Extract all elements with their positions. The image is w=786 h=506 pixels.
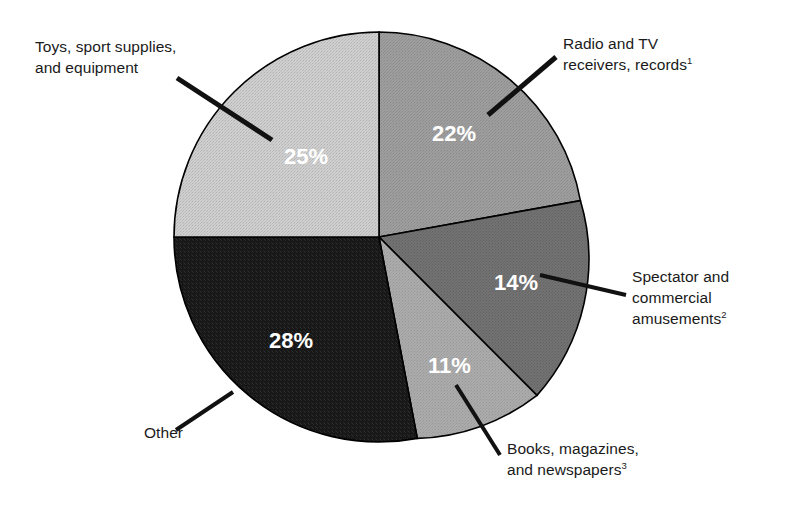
callout-label-spectator-line3-text: amusements [632, 310, 721, 327]
callout-label-books-line2: and newspapers3 [507, 459, 639, 480]
callout-label-radio-tv-line1: Radio and TV [563, 33, 692, 54]
callout-label-radio-tv: Radio and TV receivers, records1 [563, 33, 692, 75]
callout-label-radio-tv-line2-text: receivers, records [563, 56, 687, 73]
callout-label-spectator: Spectator and commercial amusements2 [632, 266, 729, 329]
leader-line-other [176, 392, 233, 430]
footnote-marker-1: 1 [687, 55, 692, 66]
footnote-marker-2: 2 [721, 309, 726, 320]
slice-value-toys: 25% [284, 144, 328, 169]
slice-value-spectator: 14% [494, 270, 538, 295]
callout-label-books-line2-text: and newspapers [507, 461, 621, 478]
slice-value-other: 28% [269, 328, 313, 353]
callout-label-books: Books, magazines, and newspapers3 [507, 438, 639, 480]
slice-value-radio-tv: 22% [432, 121, 476, 146]
callout-label-other: Other [144, 422, 183, 443]
callout-label-spectator-line1: Spectator and [632, 266, 729, 287]
pie-slice-toys[interactable] [174, 32, 379, 237]
pie-chart-figure: 25% 22% 14% 11% 28% Toys, sport supplies… [0, 0, 786, 506]
callout-label-toys-line1: Toys, sport supplies, [35, 36, 176, 57]
callout-label-books-line1: Books, magazines, [507, 438, 639, 459]
slice-value-books: 11% [428, 353, 471, 378]
callout-label-radio-tv-line2: receivers, records1 [563, 54, 692, 75]
footnote-marker-3: 3 [621, 460, 626, 471]
callout-label-spectator-line2: commercial [632, 287, 729, 308]
callout-label-toys-line2: and equipment [35, 57, 176, 78]
callout-label-toys: Toys, sport supplies, and equipment [35, 36, 176, 78]
callout-label-spectator-line3: amusements2 [632, 308, 729, 329]
callout-label-other-line1: Other [144, 422, 183, 443]
